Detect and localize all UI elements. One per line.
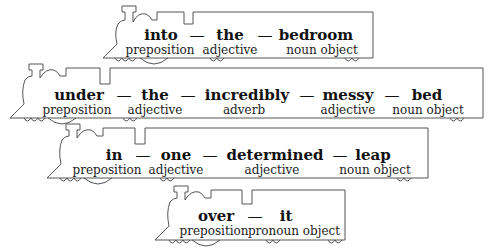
word-into: into [144,28,178,43]
word-determined: determined [227,148,324,163]
label-preposition: preposition [125,44,194,56]
separator: — [136,148,151,163]
label-adjective: adjective [203,44,258,56]
label-noun-object: noun object [286,44,358,56]
separator: — [203,148,218,163]
word-incredibly: incredibly [205,88,289,103]
separator: — [190,28,205,43]
separator: — [181,88,196,103]
word-leap: leap [355,148,390,163]
label-pronoun-object: pronoun object [248,225,340,237]
label-noun-object: noun object [392,104,464,116]
label-preposition: preposition [42,104,111,116]
separator: — [333,148,348,163]
label-preposition: preposition [179,225,248,237]
label-adjective: adjective [128,104,183,116]
word-in: in [106,148,123,163]
word-under: under [54,88,104,103]
label-adjective: adjective [245,164,300,176]
label-adjective: adjective [321,104,376,116]
separator: — [258,28,273,43]
separator: — [248,209,263,224]
word-the: the [141,88,168,103]
word-bed: bed [412,88,443,103]
separator: — [300,88,315,103]
separator: — [117,88,132,103]
word-bedroom: bedroom [279,28,353,43]
word-it: it [280,209,293,224]
word-over: over [198,209,234,224]
word-one: one [161,148,191,163]
word-the: the [216,28,243,43]
label-noun-object: noun object [339,164,411,176]
train-diagram [0,0,488,252]
label-adjective: adjective [149,164,204,176]
separator: — [385,88,400,103]
word-messy: messy [322,88,373,103]
label-preposition: preposition [72,164,141,176]
label-adverb: adverb [223,104,265,116]
